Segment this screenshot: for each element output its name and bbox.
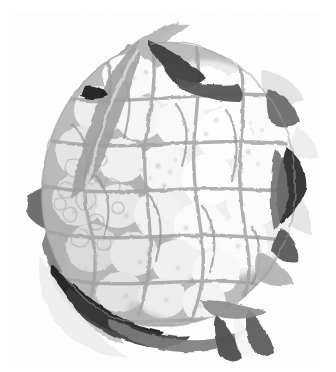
- cauliflower-illustration: [0, 0, 336, 372]
- illustration-figure: Grayscale watercolor painting of a whole…: [0, 0, 336, 372]
- watercolor-grain-overlay: [10, 12, 320, 368]
